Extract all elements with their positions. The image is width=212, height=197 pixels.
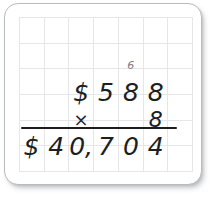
- dollar-sign: $: [69, 80, 94, 105]
- product-digit: 7: [94, 134, 119, 159]
- multiplicand-digit: 5: [94, 80, 119, 105]
- multiplicand-digit: 8: [143, 80, 168, 105]
- dollar-sign: $: [19, 134, 44, 159]
- handwritten-work-layer: 6 $ 5 8 8 × 8 $ 4 0, 7 0: [19, 17, 193, 172]
- multiplicand-digit: 8: [118, 80, 143, 105]
- product-row: $ 4 0, 7 0 4: [19, 132, 193, 160]
- product-digit: 0: [118, 134, 143, 159]
- multiplier-row: × 8: [19, 107, 193, 133]
- product-digit: 4: [44, 134, 69, 159]
- carry-row: 6: [19, 54, 193, 76]
- product-digit: 0,: [69, 134, 94, 159]
- product-digit: 4: [143, 134, 168, 159]
- worksheet-card: 6 $ 5 8 8 × 8 $ 4 0, 7 0: [4, 3, 202, 185]
- answer-rule: [21, 127, 177, 129]
- multiplicand-row: $ 5 8 8: [19, 78, 193, 106]
- carry-digit: 6: [118, 60, 143, 71]
